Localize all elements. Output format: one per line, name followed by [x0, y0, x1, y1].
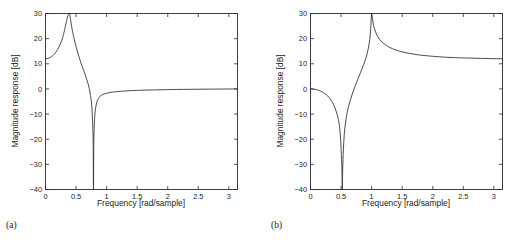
- chart-b-yticklabel: −30: [294, 160, 307, 169]
- figure-container: 00.511.522.53 −40−30−20−100102030 Freque…: [0, 0, 530, 247]
- chart-a-yticklabel: −30: [29, 160, 42, 169]
- chart-a-yticklabel: 10: [34, 59, 42, 68]
- chart-a-plot-area: 00.511.522.53 −40−30−20−100102030: [29, 9, 237, 201]
- chart-a-xticklabel: 3: [227, 192, 231, 201]
- chart-b-yticklabel: 0: [303, 85, 307, 94]
- chart-a-xticklabel: 2.5: [193, 192, 203, 201]
- chart-a-xticklabel: 0: [43, 192, 47, 201]
- chart-b-xticklabel: 3: [492, 192, 496, 201]
- chart-b-yticklabel: −20: [294, 135, 307, 144]
- chart-a-yticklabel: −40: [29, 185, 42, 194]
- chart-a-yaxis-title: Magnitude response [dB]: [10, 54, 20, 147]
- chart-b-subcaption: (b): [271, 220, 282, 230]
- chart-a-subcaption: (a): [6, 220, 17, 230]
- chart-b-yticklabel: 20: [299, 34, 307, 43]
- chart-a-yticklabel: 30: [34, 9, 42, 18]
- chart-b-svg: 00.511.522.53 −40−30−20−100102030 Freque…: [265, 0, 530, 210]
- chart-b-xticklabel: 2.5: [458, 192, 468, 201]
- chart-b-yticks: [311, 14, 503, 190]
- chart-a-yticklabel: −10: [29, 110, 42, 119]
- chart-panel-b: 00.511.522.53 −40−30−20−100102030 Freque…: [265, 0, 530, 247]
- chart-panel-a: 00.511.522.53 −40−30−20−100102030 Freque…: [0, 0, 265, 247]
- chart-a-yticklabel: 0: [38, 85, 42, 94]
- chart-b-plot-area: 00.511.522.53 −40−30−20−100102030: [294, 9, 502, 201]
- chart-b-xaxis-title: Frequency [rad/sample]: [362, 198, 450, 208]
- chart-b-xticklabel: 0.5: [336, 192, 346, 201]
- chart-b-series-line: [311, 13, 503, 189]
- chart-b-frame: [311, 14, 503, 190]
- chart-a-yticklabel: 20: [34, 34, 42, 43]
- chart-a-xticklabel: 0.5: [71, 192, 81, 201]
- chart-b-yticklabel: 30: [299, 9, 307, 18]
- chart-a-yticklabel: −20: [29, 135, 42, 144]
- chart-b-xticklabel: 0: [308, 192, 312, 201]
- chart-a-svg: 00.511.522.53 −40−30−20−100102030 Freque…: [0, 0, 265, 210]
- chart-a-xticks: [46, 14, 229, 190]
- chart-a-yticklabels: −40−30−20−100102030: [29, 9, 42, 194]
- chart-a-series-line: [46, 13, 238, 189]
- chart-b-yticklabels: −40−30−20−100102030: [294, 9, 307, 194]
- chart-a-xaxis-title: Frequency [rad/sample]: [97, 198, 185, 208]
- chart-b-yticklabel: −10: [294, 110, 307, 119]
- chart-b-yaxis-title: Magnitude response [dB]: [275, 54, 285, 147]
- chart-b-yticklabel: −40: [294, 185, 307, 194]
- chart-b-yticklabel: 10: [299, 59, 307, 68]
- chart-b-xticks: [311, 14, 494, 190]
